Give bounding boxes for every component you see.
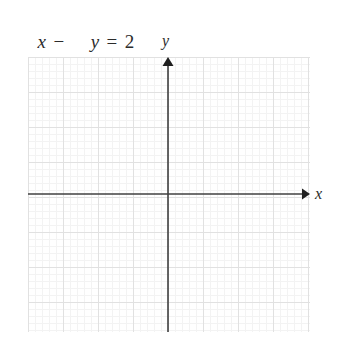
x-axis-arrowhead-icon xyxy=(302,189,310,200)
equation-term-y: y xyxy=(91,31,100,52)
equation-constant: 2 xyxy=(125,31,135,52)
equation-prompt: x−y=2 xyxy=(27,3,135,55)
y-axis-label: y xyxy=(162,33,169,49)
x-axis-label: x xyxy=(315,186,322,202)
axes-group xyxy=(28,57,310,332)
coordinate-graph xyxy=(28,57,310,332)
equation-term-x: x xyxy=(38,31,47,52)
equation-operator: − xyxy=(53,31,64,52)
equation-equals-sign: = xyxy=(107,31,118,52)
y-axis-arrowhead-icon xyxy=(163,57,174,66)
